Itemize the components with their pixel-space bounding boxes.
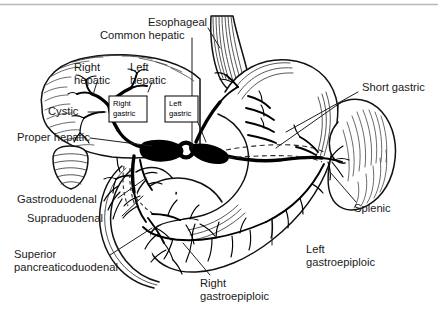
label-right-gastric-line1: Right [113,99,132,108]
spd-twig-a [168,200,177,215]
label-right-gastroepiploic-line1: Right [200,277,227,289]
hepatic-confluence-mass [189,143,229,164]
anatomy-diagram-svg: Esophageal Common hepatic Right hepatic … [0,0,438,322]
pancreas-outline [150,178,222,202]
label-superior-pancreaticoduodenal-line2: pancreaticoduodenal [14,261,118,273]
label-proper-hepatic: Proper hepatic [17,131,90,143]
label-cystic: Cystic [48,105,79,117]
label-right-hepatic-line2: hepatic [74,74,110,86]
label-esophageal: Esophageal [148,16,207,28]
label-right-gastroepiploic-line2: gastroepiploic [200,290,269,302]
superior-pancreaticoduodenal-anterior [152,214,180,220]
label-left-hepatic-line1: Left [130,61,150,73]
label-left-gastroepiploic-line2: gastroepiploic [306,256,375,268]
anatomy-figure-root: Esophageal Common hepatic Right hepatic … [0,0,438,322]
label-common-hepatic: Common hepatic [100,29,185,41]
label-gastroduodenal: Gastroduodenal [17,193,97,205]
label-superior-pancreaticoduodenal-line1: Superior [14,248,57,260]
label-right-hepatic-line1: Right [74,61,101,73]
label-left-gastric-line2: gastric [169,109,192,118]
label-left-hepatic-line2: hepatic [130,74,166,86]
label-right-gastric-line2: gastric [113,109,136,118]
label-supraduodenal: Supraduodenal [27,212,103,224]
label-splenic: Splenic [354,202,391,214]
label-short-gastric: Short gastric [362,81,425,93]
label-left-gastroepiploic-line1: Left [306,243,326,255]
label-left-gastric-line1: Left [169,99,183,108]
